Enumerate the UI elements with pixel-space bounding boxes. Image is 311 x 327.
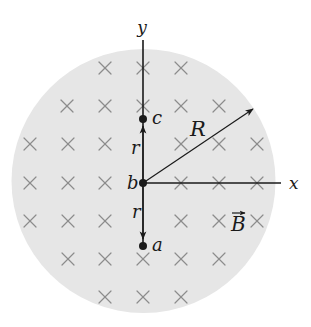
point-a-dot — [139, 242, 147, 250]
b-field-label-text: B — [230, 212, 246, 236]
magnetic-field-diagram: rrR cba x y B — [0, 0, 311, 327]
x-axis-label: x — [289, 173, 299, 193]
vector-r-up-label: r — [131, 137, 141, 158]
vector-r-down-label: r — [132, 201, 142, 222]
y-axis-label: y — [136, 17, 147, 37]
point-c-dot — [139, 115, 147, 123]
vector-R-label: R — [189, 117, 206, 141]
point-b-label: b — [127, 172, 139, 193]
b-field-vector-label: B — [230, 212, 246, 236]
point-b-dot — [139, 179, 147, 187]
point-c-label: c — [152, 107, 162, 128]
point-a-label: a — [152, 234, 163, 255]
